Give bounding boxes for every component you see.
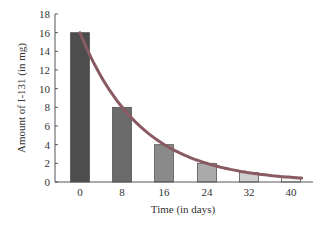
x-tick-label: 16 — [159, 186, 171, 198]
x-axis-title: Time (in days) — [151, 203, 216, 216]
x-tick-label: 40 — [286, 186, 298, 198]
y-tick-label: 16 — [39, 27, 51, 39]
y-axis: 024681012141618 — [39, 8, 58, 188]
y-tick-label: 12 — [39, 64, 50, 76]
bar-8 — [113, 107, 132, 182]
y-tick-label: 14 — [39, 45, 51, 57]
y-tick-label: 10 — [39, 83, 51, 95]
decay-chart: 024681012141618 0816243240 Time (in days… — [0, 0, 330, 228]
x-axis: 0816243240 — [55, 182, 313, 198]
x-tick-label: 32 — [244, 186, 255, 198]
x-tick-label: 24 — [202, 186, 214, 198]
y-tick-label: 0 — [45, 176, 51, 188]
y-axis-title: Amount of I-131 (in mg) — [15, 43, 28, 153]
bar-16 — [155, 145, 174, 182]
x-tick-label: 0 — [77, 186, 83, 198]
y-tick-label: 4 — [45, 139, 51, 151]
y-tick-label: 18 — [39, 8, 51, 20]
bar-0 — [71, 33, 90, 182]
y-tick-label: 6 — [45, 120, 51, 132]
bars — [71, 33, 301, 182]
y-tick-label: 8 — [45, 101, 51, 113]
y-tick-label: 2 — [45, 157, 51, 169]
x-tick-label: 8 — [119, 186, 125, 198]
